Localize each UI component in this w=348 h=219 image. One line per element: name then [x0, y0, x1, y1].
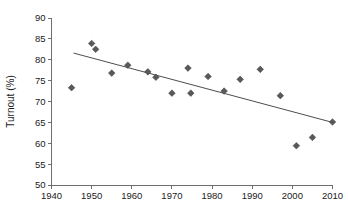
trend-line — [74, 53, 333, 122]
data-point-marker — [145, 69, 152, 76]
y-tick-label: 65 — [35, 117, 46, 128]
x-tick-label: 1970 — [161, 190, 182, 201]
y-tick-label: 50 — [35, 179, 46, 190]
turnout-scatter-chart: 505560657075808590 194019501960197019801… — [0, 0, 348, 219]
y-tick-label: 75 — [35, 75, 46, 86]
y-tick-label: 55 — [35, 159, 46, 170]
data-point-marker — [329, 119, 336, 126]
data-point-marker — [187, 90, 194, 97]
x-tick-label: 1950 — [81, 190, 102, 201]
data-point-marker — [277, 92, 284, 99]
data-point-marker — [257, 66, 264, 73]
data-point-marker — [221, 88, 228, 95]
data-point-marker — [92, 46, 99, 53]
y-tick-label: 90 — [35, 12, 46, 23]
data-point-marker — [237, 76, 244, 83]
data-point-marker — [68, 84, 75, 91]
data-point-marker — [88, 40, 95, 47]
data-points — [68, 40, 336, 149]
y-axis-ticks: 505560657075808590 — [35, 12, 52, 190]
y-tick-label: 70 — [35, 96, 46, 107]
x-axis-ticks: 19401950196019701980199020002010 — [41, 185, 343, 201]
x-tick-label: 1980 — [202, 190, 223, 201]
data-point-marker — [205, 73, 212, 80]
data-point-marker — [124, 62, 131, 69]
y-tick-label: 80 — [35, 54, 46, 65]
data-point-marker — [293, 142, 300, 149]
x-tick-label: 2000 — [282, 190, 303, 201]
chart-canvas: 505560657075808590 194019501960197019801… — [0, 0, 348, 219]
x-tick-label: 1990 — [242, 190, 263, 201]
y-axis-label: Turnout (%) — [5, 75, 16, 127]
y-tick-label: 60 — [35, 138, 46, 149]
x-tick-label: 1960 — [121, 190, 142, 201]
data-point-marker — [169, 90, 176, 97]
x-tick-label: 1940 — [41, 190, 62, 201]
data-point-marker — [185, 65, 192, 72]
y-tick-label: 85 — [35, 33, 46, 44]
x-tick-label: 2010 — [322, 190, 343, 201]
data-point-marker — [108, 70, 115, 77]
data-point-marker — [309, 134, 316, 141]
